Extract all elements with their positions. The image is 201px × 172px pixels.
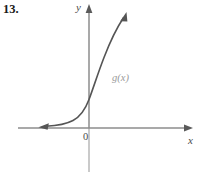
exponential-function-figure: 13. y x 0 g(x): [0, 0, 201, 172]
y-axis-arrowhead-icon: [86, 4, 93, 13]
curve-top-arrowhead-icon: [120, 12, 127, 22]
curve-left-arrowhead-icon: [39, 123, 49, 130]
x-axis-label: x: [188, 134, 193, 146]
plot-canvas: [0, 0, 201, 172]
x-axis-arrowhead-icon: [184, 124, 193, 131]
origin-label: 0: [83, 131, 88, 143]
curve-function-label: g(x): [112, 72, 129, 84]
y-axis-label: y: [76, 1, 81, 13]
